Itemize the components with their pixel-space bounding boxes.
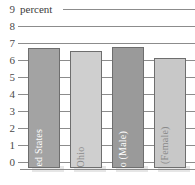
y-tick-label-6: 6 <box>2 53 15 67</box>
y-tick-label-2: 2 <box>2 121 15 135</box>
y-tick-label-4: 4 <box>2 87 15 101</box>
y-tick-label-9: 9 <box>2 2 15 16</box>
y-tick-label-0: 0 <box>2 155 15 169</box>
bar-label-ohio: Ohio <box>75 147 86 168</box>
y-tick-label-5: 5 <box>2 70 15 84</box>
y-tick-label-3: 3 <box>2 104 15 118</box>
y-tick-label-8: 8 <box>2 19 15 33</box>
bar-series: United States Ohio Ohio (Male) Ohio (Fem… <box>20 9 195 168</box>
x-axis-baseline <box>20 169 195 170</box>
bar-label-ohio-male: Ohio (Male) <box>117 131 128 168</box>
bar-chart: 9 percent 8 7 6 5 4 3 2 <box>0 0 195 185</box>
bar-ohio-female[interactable]: Ohio (Female) <box>154 58 186 168</box>
bar-united-states[interactable]: United States <box>28 48 60 168</box>
bar-label-ohio-female: Ohio (Female) <box>159 126 170 168</box>
plot-area: United States Ohio Ohio (Male) Ohio (Fem… <box>20 9 195 168</box>
bar-ohio[interactable]: Ohio <box>70 51 102 168</box>
bar-label-united-states: United States <box>33 129 44 168</box>
y-tick-label-7: 7 <box>2 36 15 50</box>
bar-ohio-male[interactable]: Ohio (Male) <box>112 47 144 168</box>
y-tick-label-1: 1 <box>2 138 15 152</box>
